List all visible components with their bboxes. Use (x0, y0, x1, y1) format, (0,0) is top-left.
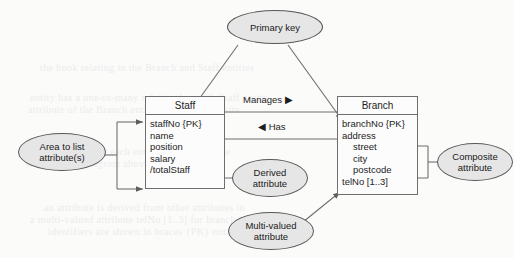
attribute-name: name (150, 130, 224, 142)
callout-composite-attribute[interactable]: Composite attribute (437, 143, 513, 181)
callout-line-2: attribute (253, 178, 287, 189)
callout-multi-valued-attribute[interactable]: Multi-valued attribute (228, 212, 314, 250)
attribute-position: position (150, 141, 224, 153)
entity-staff-attributes: staffNo {PK} name position salary /total… (146, 115, 224, 176)
attribute-salary: salary (150, 153, 224, 165)
attribute-branchno: branchNo {PK} (342, 118, 417, 130)
attribute-city: city (342, 153, 417, 165)
leader-multi-valued-attribute (303, 192, 340, 222)
callout-line-2: attribute (254, 231, 288, 242)
callout-line-2: attribute (458, 162, 492, 173)
leader-primary-key-branch (288, 45, 342, 120)
callout-derived-attribute-label: Derived attribute (253, 167, 287, 189)
attribute-staffno: staffNo {PK} (150, 118, 224, 130)
callout-primary-key[interactable]: Primary key (227, 10, 323, 44)
entity-staff-name: Staff (146, 97, 224, 115)
callout-line-1: Multi-valued (245, 220, 296, 231)
callout-multi-valued-attribute-label: Multi-valued attribute (245, 220, 296, 242)
callout-derived-attribute[interactable]: Derived attribute (232, 159, 308, 197)
callout-area-to-list-attributes-label: Area to list attribute(s) (39, 141, 84, 163)
callout-composite-attribute-label: Composite attribute (452, 151, 497, 173)
attribute-address: address (342, 130, 417, 142)
relationship-label-manages: Manages ▶ (243, 94, 293, 105)
entity-branch[interactable]: Branch branchNo {PK} address street city… (337, 96, 418, 195)
attribute-telno: telNo [1..3] (342, 176, 417, 188)
relationship-label-has: ◀ Has (258, 121, 286, 132)
callout-area-to-list-attributes[interactable]: Area to list attribute(s) (18, 133, 106, 171)
callout-line-2: attribute(s) (39, 152, 84, 163)
callout-primary-key-label: Primary key (250, 22, 300, 33)
callout-line-1: Composite (452, 151, 497, 162)
attribute-totalstaff: /totalStaff (150, 164, 224, 176)
callout-line-1: Area to list (40, 141, 85, 152)
attribute-street: street (342, 141, 417, 153)
er-diagram-figure: the book relating to the Branch and Staf… (0, 0, 514, 258)
callout-line-1: Derived (254, 167, 287, 178)
entity-branch-name: Branch (338, 97, 417, 115)
entity-branch-attributes: branchNo {PK} address street city postco… (338, 115, 417, 188)
entity-staff[interactable]: Staff staffNo {PK} name position salary … (145, 96, 225, 189)
attribute-postcode: postcode (342, 164, 417, 176)
